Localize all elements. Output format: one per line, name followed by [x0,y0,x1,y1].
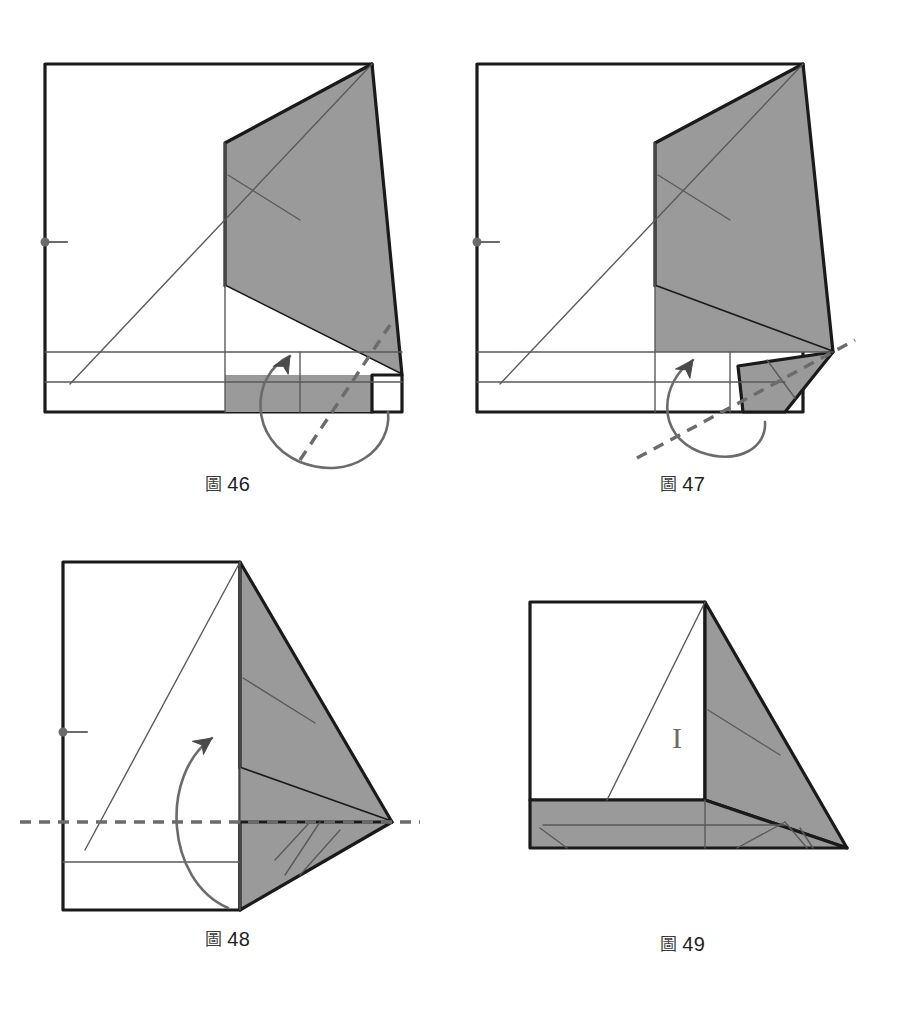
figure-46: 圖46 [0,30,455,500]
figure-49: I圖49 [455,560,909,980]
caption-figure-number: 49 [682,933,705,955]
paper-body [63,562,240,910]
caption-figure-mark: 圖 [660,934,678,954]
caption-figure-mark: 圖 [660,474,678,494]
figure-caption-46: 圖46 [0,470,455,496]
right-tab [372,375,402,412]
figure-canvas-49: I [455,560,909,980]
caption-figure-mark: 圖 [205,929,223,949]
lower-folded-flap [240,822,392,910]
figure-canvas-46 [0,30,455,500]
paper-body-white [530,602,705,800]
figure-caption-49: 圖49 [455,930,909,956]
figure-canvas-48 [0,530,455,980]
i-marker: I [672,721,682,754]
origami-instruction-sheet: 圖46圖47圖48I圖49 [0,0,909,1016]
caption-figure-number: 46 [227,473,250,495]
figure-48: 圖48 [0,530,455,980]
figure-47: 圖47 [455,30,909,500]
caption-figure-number: 47 [682,473,705,495]
figure-caption-47: 圖47 [455,470,909,496]
figure-caption-48: 圖48 [0,925,455,951]
caption-figure-mark: 圖 [205,474,223,494]
caption-figure-number: 48 [227,928,250,950]
figure-canvas-47 [455,30,909,500]
